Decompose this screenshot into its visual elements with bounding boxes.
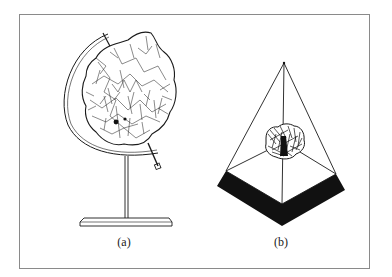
pyramid-apex — [283, 62, 285, 64]
globe-dark-spot — [123, 117, 126, 120]
figure-illustration — [0, 0, 392, 277]
caption-panel-b: (b) — [274, 235, 288, 249]
panel-a-globe — [64, 32, 176, 226]
panel-b-pyramid — [217, 62, 345, 226]
caption-panel-a: (a) — [117, 235, 130, 249]
pyramid-base-left — [226, 150, 268, 171]
globe-dark-spot — [114, 120, 119, 125]
axis-pin-cap — [154, 163, 161, 170]
